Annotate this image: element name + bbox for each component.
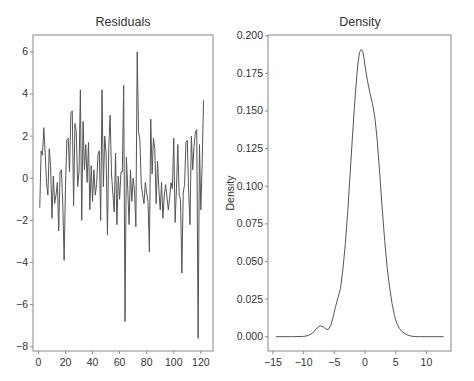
y-tick-label: 0.050 xyxy=(237,255,263,267)
x-tick-label: 40 xyxy=(87,356,99,368)
y-tick-label: 0.075 xyxy=(237,217,263,229)
x-tick-label: 20 xyxy=(60,356,72,368)
y-tick-label: 0.175 xyxy=(237,67,263,79)
y-tick-label: −4 xyxy=(16,256,28,268)
x-tick-label: 120 xyxy=(192,356,210,368)
x-tick-label: 0 xyxy=(362,356,368,368)
y-tick-label: 0.125 xyxy=(237,142,263,154)
x-tick-label: 100 xyxy=(165,356,183,368)
x-tick-label: 5 xyxy=(393,356,399,368)
y-tick-label: 4 xyxy=(22,87,28,99)
y-tick-label: −8 xyxy=(16,340,28,352)
y-tick-label: 0.025 xyxy=(237,293,263,305)
x-tick-label: 10 xyxy=(421,356,433,368)
y-tick-label: −2 xyxy=(16,214,28,226)
x-tick-label: −5 xyxy=(328,356,340,368)
residuals-title: Residuals xyxy=(96,15,151,29)
y-tick-label: 0.100 xyxy=(237,180,263,192)
figure-canvas: Residuals −8−6−4−20246 020406080100120 D… xyxy=(0,0,474,381)
y-tick-label: −6 xyxy=(16,298,28,310)
x-tick-label: 0 xyxy=(35,356,41,368)
y-tick-label: 0.200 xyxy=(237,29,263,41)
y-tick-label: 0 xyxy=(22,172,28,184)
figure: Residuals −8−6−4−20246 020406080100120 D… xyxy=(0,0,474,381)
density-y-axis-label: Density xyxy=(224,175,236,211)
y-tick-label: 6 xyxy=(22,45,28,57)
y-tick-label: 2 xyxy=(22,130,28,142)
y-tick-label: 0.000 xyxy=(237,330,263,342)
y-tick-label: 0.150 xyxy=(237,104,263,116)
density-title: Density xyxy=(339,15,381,29)
x-tick-label: 80 xyxy=(141,356,153,368)
x-tick-label: −15 xyxy=(264,356,282,368)
x-tick-label: −10 xyxy=(295,356,313,368)
x-tick-label: 60 xyxy=(114,356,126,368)
